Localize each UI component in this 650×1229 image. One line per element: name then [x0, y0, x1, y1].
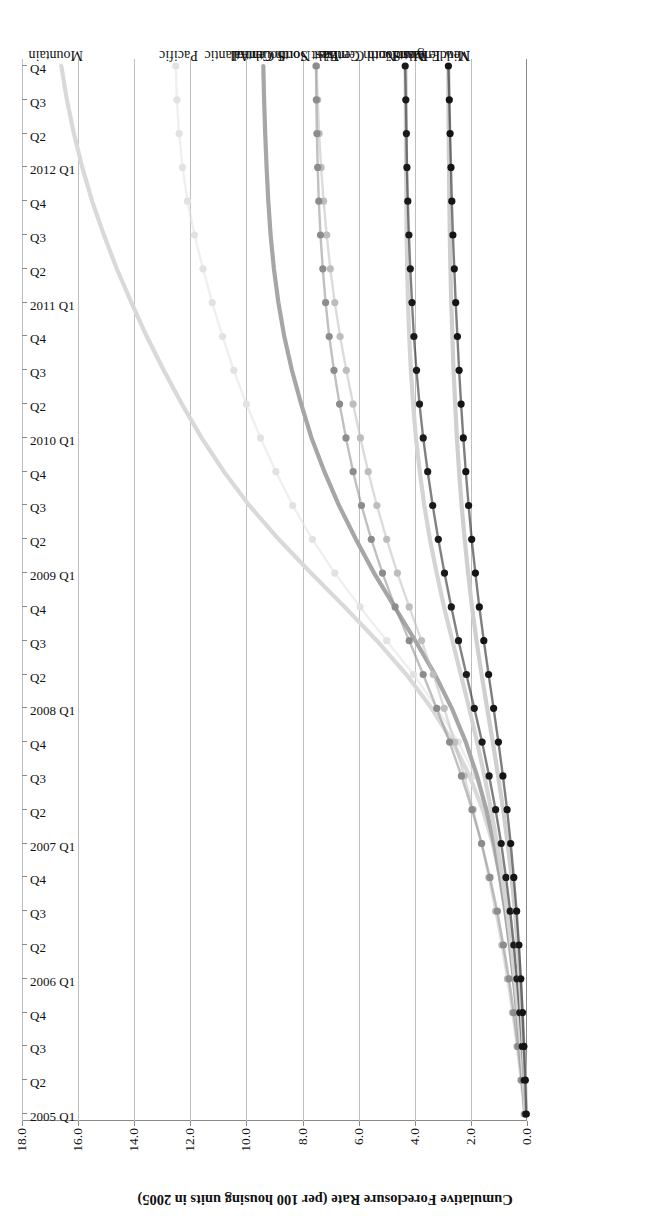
series-marker [403, 164, 410, 171]
series-marker [357, 434, 364, 441]
series-marker [446, 96, 453, 103]
series-marker [449, 231, 456, 238]
figure-rotated-wrapper: Cumulative Foreclosure Rate (per 100 hou… [0, 0, 650, 1229]
series-marker [420, 671, 427, 678]
y-tick-mark [78, 1121, 79, 1126]
series-marker [392, 603, 399, 610]
series-marker [476, 603, 483, 610]
series-marker [327, 265, 334, 272]
series-marker [330, 367, 337, 374]
series-marker [520, 1043, 527, 1050]
y-tick-label: 8.0 [295, 1128, 311, 1145]
y-tick-mark [190, 1121, 191, 1126]
series-marker [406, 637, 413, 644]
series-marker [413, 367, 420, 374]
series-marker [420, 434, 427, 441]
series-marker [510, 874, 517, 881]
series-curves [22, 59, 527, 1121]
series-marker [485, 671, 492, 678]
series-label: Middle Atlantic [382, 47, 470, 63]
series-marker [445, 62, 452, 69]
series-marker [456, 367, 463, 374]
y-tick-label: 4.0 [407, 1128, 423, 1145]
series-marker [523, 1110, 530, 1117]
series-marker [406, 603, 413, 610]
y-tick-label: 2.0 [463, 1128, 479, 1145]
series-marker [505, 975, 512, 982]
series-marker [312, 62, 319, 69]
series-marker [383, 536, 390, 543]
y-tick-mark [471, 1121, 472, 1126]
series-label: Pacific [159, 47, 198, 63]
y-tick-label: 14.0 [126, 1128, 142, 1152]
series-marker [463, 671, 470, 678]
series-marker [447, 164, 454, 171]
y-tick-mark [527, 1121, 528, 1126]
series-marker [433, 705, 440, 712]
series-marker [368, 536, 375, 543]
plot-area: 0.02.04.06.08.010.012.014.016.018.0 2005… [22, 59, 527, 1121]
series-marker [452, 299, 459, 306]
y-tick-mark [415, 1121, 416, 1126]
series-marker [315, 198, 322, 205]
series-marker [515, 941, 522, 948]
series-marker [522, 1077, 529, 1084]
series-marker [430, 671, 437, 678]
series-marker [357, 603, 364, 610]
series-marker [342, 434, 349, 441]
y-tick-mark [134, 1121, 135, 1126]
series-marker [343, 367, 350, 374]
series-marker [394, 569, 401, 576]
series-marker [416, 400, 423, 407]
series-line [263, 66, 525, 1114]
series-marker [314, 164, 321, 171]
series-marker [486, 772, 493, 779]
series-marker [176, 130, 183, 137]
series-marker [458, 400, 465, 407]
series-marker [451, 265, 458, 272]
series-marker [479, 739, 486, 746]
series-marker [499, 772, 506, 779]
y-tick-mark [22, 1121, 23, 1126]
series-marker [402, 62, 409, 69]
series-marker [495, 739, 502, 746]
y-tick-label: 18.0 [14, 1128, 30, 1152]
y-axis-title: Cumulative Foreclosure Rate (per 100 hou… [137, 1191, 512, 1208]
foreclosure-rate-chart: Cumulative Foreclosure Rate (per 100 hou… [0, 0, 650, 1229]
y-tick-label: 0.0 [519, 1128, 535, 1145]
series-marker [184, 198, 191, 205]
series-marker [519, 1009, 526, 1016]
series-marker [322, 299, 329, 306]
y-tick-label: 16.0 [70, 1128, 86, 1152]
series-marker [435, 536, 442, 543]
series-marker [313, 130, 320, 137]
series-marker [468, 536, 475, 543]
series-marker [502, 874, 509, 881]
series-marker [350, 468, 357, 475]
series-line [176, 66, 526, 1114]
series-marker [405, 231, 412, 238]
series-marker [404, 198, 411, 205]
series-marker [402, 96, 409, 103]
series-marker [486, 874, 493, 881]
series-marker [408, 299, 415, 306]
series-marker [199, 265, 206, 272]
series-marker [383, 637, 390, 644]
series-marker [243, 400, 250, 407]
series-marker [410, 333, 417, 340]
y-tick-mark [359, 1121, 360, 1126]
series-marker [309, 536, 316, 543]
series-marker [424, 468, 431, 475]
series-marker [448, 198, 455, 205]
series-marker [462, 468, 469, 475]
series-marker [323, 231, 330, 238]
series-marker [504, 806, 511, 813]
series-marker [230, 367, 237, 374]
series-marker [478, 840, 485, 847]
series-marker [313, 96, 320, 103]
y-tick-mark [303, 1121, 304, 1126]
series-marker [410, 671, 417, 678]
y-tick-label: 6.0 [351, 1128, 367, 1145]
series-marker [468, 806, 475, 813]
y-tick-mark [246, 1121, 247, 1126]
